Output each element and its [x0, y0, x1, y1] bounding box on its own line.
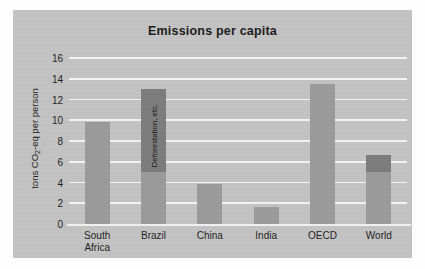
x-axis-tick-label: World	[341, 230, 417, 242]
bar[interactable]	[366, 155, 391, 225]
y-axis-tick-label: 16	[23, 53, 63, 64]
bar[interactable]	[254, 207, 279, 224]
bar[interactable]	[310, 84, 335, 224]
gridline	[69, 78, 407, 80]
y-axis-tick-label: 10	[23, 115, 63, 126]
gridline	[69, 182, 407, 184]
gridline	[69, 99, 407, 101]
gridline	[69, 140, 407, 142]
gridline	[69, 161, 407, 163]
bar-segment-deforestation: Deforestation, etc.	[141, 89, 166, 172]
bar-segment-deforestation	[366, 155, 391, 173]
y-axis-tick-label: 8	[23, 136, 63, 147]
bar[interactable]	[197, 184, 222, 224]
bar[interactable]	[85, 122, 110, 224]
chart-panel: Emissions per capita tons CO2-eq per per…	[13, 10, 412, 258]
y-axis-tick-label: 12	[23, 94, 63, 105]
y-axis-tick-label: 6	[23, 156, 63, 167]
figure: Emissions per capita tons CO2-eq per per…	[0, 0, 425, 269]
gridline	[69, 202, 407, 204]
chart-title: Emissions per capita	[13, 24, 412, 38]
y-axis-tick-label: 2	[23, 198, 63, 209]
y-axis-tick-label: 14	[23, 73, 63, 84]
y-axis-label-subscript: 2	[34, 150, 41, 154]
bar-annotation-deforestation: Deforestation, etc.	[149, 103, 158, 167]
gridline	[69, 119, 407, 121]
x-axis-tick-label-line: World	[341, 230, 417, 242]
gridline	[69, 57, 407, 59]
x-axis-baseline	[67, 224, 411, 226]
plot-area: 0246810121416 Deforestation, etc. SouthA…	[69, 58, 407, 224]
bar[interactable]: Deforestation, etc.	[141, 89, 166, 224]
x-axis-tick-label-line: Africa	[59, 242, 135, 254]
y-axis-tick-label: 4	[23, 177, 63, 188]
y-axis-tick-label: 0	[23, 219, 63, 230]
